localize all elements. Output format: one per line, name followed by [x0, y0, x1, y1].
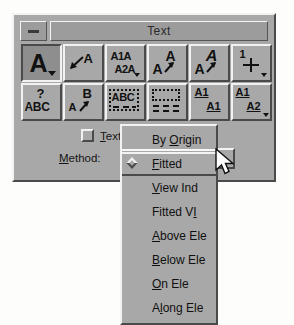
menu-item-label: Below Ele — [152, 253, 205, 267]
menu-item-fitted[interactable]: Fitted — [122, 152, 216, 176]
radio-diamond-icon — [127, 158, 139, 170]
place-text-icon: A — [24, 47, 60, 79]
tool-match-text-attributes[interactable]: A A — [147, 44, 188, 82]
tool-place-note[interactable]: A — [63, 44, 104, 82]
menu-item-fitted-vi[interactable]: Fitted VI — [122, 200, 216, 224]
increment-enter-data-field-icon: A1 A2 — [234, 86, 270, 118]
menu-item-below-ele[interactable]: Below Ele — [122, 248, 216, 272]
menu-item-view-ind[interactable]: View Ind — [122, 176, 216, 200]
text-node-abc-icon: ABC — [108, 86, 144, 118]
tool-edit-text[interactable]: A1A A2A — [105, 44, 146, 82]
minimize-button[interactable] — [20, 21, 47, 41]
tool-empty-text-node[interactable] — [147, 83, 188, 121]
tool-grid: A A — [21, 44, 275, 121]
tool-text-question[interactable]: ? ABC — [21, 83, 62, 121]
menu-item-label: View Ind — [152, 181, 198, 195]
menu-item-on-ele[interactable]: On Ele — [122, 272, 216, 296]
place-note-icon: A — [66, 47, 102, 79]
copy-increment-text-icon: B A — [66, 86, 102, 118]
tool-copy-increment-text[interactable]: B A — [63, 83, 104, 121]
tool-increment-enter-data-field[interactable]: A1 A2 — [231, 83, 272, 121]
menu-item-label: Fitted VI — [152, 205, 197, 219]
edit-text-icon: A1A A2A — [108, 47, 144, 79]
tool-text-node-abc[interactable]: ABC — [105, 83, 146, 121]
window-title: Text — [147, 24, 171, 38]
tool-row-1: A A — [21, 44, 275, 82]
method-label: Method: — [59, 152, 101, 164]
tool-row-2: ? ABC B A — [21, 83, 275, 121]
menu-item-label: On Ele — [152, 277, 189, 291]
method-row: Method: — [59, 152, 101, 164]
menu-item-label: By Origin — [152, 133, 201, 147]
method-popup-menu: By Origin Fitted View Ind Fitted VI Abov… — [120, 124, 218, 325]
title-area[interactable]: Text — [50, 21, 268, 41]
menu-item-label: Along Ele — [152, 301, 203, 315]
minimize-icon — [28, 30, 39, 33]
text-checkbox[interactable] — [81, 129, 94, 142]
tool-place-text[interactable]: A — [21, 44, 62, 82]
change-text-attributes-icon: A A — [192, 47, 228, 79]
menu-item-by-origin[interactable]: By Origin — [122, 128, 216, 152]
menu-item-label: Above Ele — [152, 229, 207, 243]
empty-text-node-icon — [150, 86, 186, 118]
display-text-attributes-icon: 1 — [234, 47, 270, 79]
text-checkbox-row: Text — [81, 129, 121, 142]
menu-item-label: Fitted — [152, 157, 182, 171]
text-question-icon: ? ABC — [24, 86, 60, 118]
copy-enter-data-field-icon: A1 A1 — [192, 86, 228, 118]
match-text-attributes-icon: A A — [150, 47, 186, 79]
menu-item-along-ele[interactable]: Along Ele — [122, 296, 216, 320]
tool-display-text-attributes[interactable]: 1 — [231, 44, 272, 82]
text-checkbox-label: Text — [100, 130, 121, 142]
menu-item-above-ele[interactable]: Above Ele — [122, 224, 216, 248]
tool-change-text-attributes[interactable]: A A — [189, 44, 230, 82]
tool-copy-enter-data-field[interactable]: A1 A1 — [189, 83, 230, 121]
titlebar: Text — [20, 21, 268, 41]
